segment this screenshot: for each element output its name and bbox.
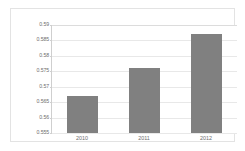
y-tick-label: 0.56 (39, 115, 49, 120)
x-tick-label: 2010 (51, 136, 113, 148)
bar-chart-figure: 0.5550.560.5650.570.5750.580.5850.59 201… (0, 0, 245, 151)
bar (191, 34, 222, 133)
y-tick-label: 0.565 (37, 100, 49, 105)
x-tick-label: 2011 (113, 136, 175, 148)
y-tick-label: 0.555 (37, 130, 49, 135)
y-tick-label: 0.59 (39, 22, 49, 27)
bar-slot (52, 25, 114, 133)
y-tick-label: 0.57 (39, 84, 49, 89)
x-tick-label: 2012 (175, 136, 237, 148)
bar (129, 68, 160, 133)
gridline (52, 133, 237, 134)
bar-slot (175, 25, 237, 133)
bar (67, 96, 98, 133)
chart-frame: 0.5550.560.5650.570.5750.580.5850.59 201… (10, 8, 235, 142)
bars-group (52, 25, 237, 133)
y-tick-label: 0.575 (37, 69, 49, 74)
x-axis-labels: 201020112012 (51, 136, 237, 148)
bar-slot (114, 25, 176, 133)
plot-area: 0.5550.560.5650.570.5750.580.5850.59 (51, 25, 237, 134)
y-tick-label: 0.58 (39, 53, 49, 58)
y-tick-mark (50, 133, 52, 134)
y-tick-label: 0.585 (37, 38, 49, 43)
